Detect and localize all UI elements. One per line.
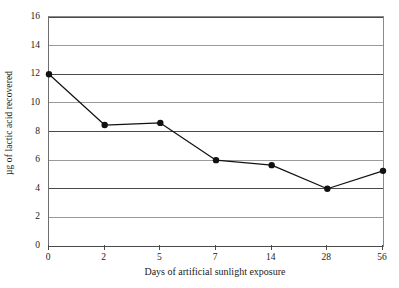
series-line	[49, 74, 383, 189]
x-tick-mark	[104, 245, 105, 250]
y-tick-label: 6	[35, 154, 40, 164]
x-tick-label: 5	[157, 251, 162, 263]
y-tick-label: 12	[31, 68, 41, 78]
data-point-marker	[380, 168, 386, 174]
x-tick-label: 14	[266, 251, 276, 263]
x-tick-label: 28	[322, 251, 332, 263]
series-markers	[46, 71, 386, 192]
y-axis-title-text: µg of lactic acid recovered	[4, 70, 14, 174]
x-tick-mark	[159, 245, 160, 250]
x-tick-label: 0	[46, 251, 51, 263]
data-point-marker	[213, 157, 219, 163]
x-tick-mark	[271, 245, 272, 250]
data-point-marker	[101, 122, 107, 128]
y-tick-label: 8	[35, 126, 40, 136]
data-point-marker	[324, 186, 330, 192]
y-tick-label: 0	[35, 240, 40, 250]
data-point-marker	[46, 71, 52, 77]
x-tick-label: 56	[377, 251, 387, 263]
x-tick-mark	[215, 245, 216, 250]
data-series-layer	[49, 17, 383, 246]
plot-area	[48, 16, 384, 247]
x-axis-title: Days of artificial sunlight exposure	[48, 266, 382, 277]
x-tick-mark	[326, 245, 327, 250]
x-tick-mark	[382, 245, 383, 250]
x-tick-label: 7	[213, 251, 218, 263]
y-tick-label: 16	[31, 11, 41, 21]
y-tick-label: 14	[31, 40, 41, 50]
x-axis-tick-labels: 0257142856	[0, 251, 399, 265]
x-tick-label: 2	[101, 251, 106, 263]
y-axis-tick-labels: 0246810121416	[16, 0, 44, 260]
data-point-marker	[268, 162, 274, 168]
y-tick-label: 10	[31, 97, 41, 107]
line-chart: µg of lactic acid recovered 024681012141…	[0, 0, 399, 288]
x-tick-mark	[48, 245, 49, 250]
y-tick-label: 4	[35, 183, 40, 193]
y-tick-label: 2	[35, 211, 40, 221]
data-point-marker	[157, 120, 163, 126]
